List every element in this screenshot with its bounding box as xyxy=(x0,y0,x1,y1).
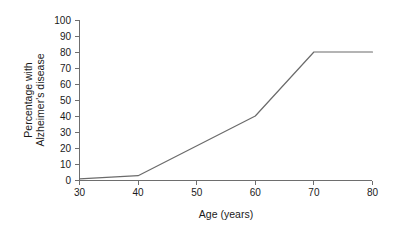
y-tick-label: 10 xyxy=(60,159,72,170)
x-tick-label: 40 xyxy=(133,187,145,198)
y-axis-title: Percentage with Alzheimer's disease xyxy=(22,53,46,146)
x-tick-label: 70 xyxy=(308,187,320,198)
x-axis-title: Age (years) xyxy=(199,208,253,220)
x-tick-label: 80 xyxy=(367,187,379,198)
y-tick-label: 0 xyxy=(65,175,71,186)
y-tick-label: 40 xyxy=(60,111,72,122)
y-tick-label: 90 xyxy=(60,31,72,42)
chart-figure: 100 90 80 70 60 50 40 30 20 10 0 30 40 5… xyxy=(0,0,398,231)
y-tick-label: 100 xyxy=(54,15,71,26)
y-tick-label: 60 xyxy=(60,79,72,90)
y-axis-title-line-2: Alzheimer's disease xyxy=(34,53,46,146)
y-tick-label: 50 xyxy=(60,95,72,106)
y-tick-label: 30 xyxy=(60,127,72,138)
x-tick-label: 60 xyxy=(250,187,262,198)
x-tick-label: 50 xyxy=(191,187,203,198)
x-tick-label: 30 xyxy=(74,187,86,198)
y-tick-label: 70 xyxy=(60,63,72,74)
y-tick-label: 20 xyxy=(60,143,72,154)
y-axis-title-line-1: Percentage with xyxy=(22,62,34,137)
line-chart: 100 90 80 70 60 50 40 30 20 10 0 30 40 5… xyxy=(0,0,398,231)
y-tick-label: 80 xyxy=(60,47,72,58)
